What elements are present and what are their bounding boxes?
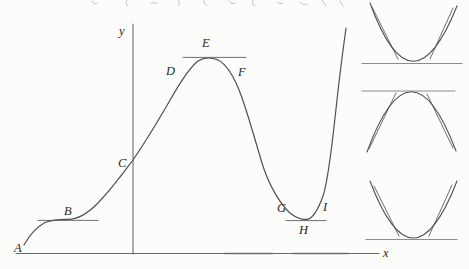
inset-middle-right-tangent-line (427, 94, 453, 148)
inset-middle-concave-down (362, 91, 456, 152)
inset-bottom-concave-up (366, 181, 457, 240)
point-label-b: B (64, 204, 72, 218)
y-axis-label: y (117, 24, 125, 38)
inset-middle-left-tangent-line (369, 93, 396, 149)
point-label-g: G (277, 201, 286, 215)
point-label-a: A (13, 241, 22, 255)
point-label-e: E (201, 36, 210, 50)
point-label-f: F (237, 65, 246, 79)
inset-bottom-parabola-curve (370, 181, 457, 238)
inset-bottom-right-tangent-line (429, 185, 452, 236)
figure-canvas: y x A B C D E F G H I (0, 0, 469, 269)
point-label-h: H (298, 223, 309, 237)
inset-top-right-tangent-line (430, 8, 453, 59)
x-axis-label: x (382, 246, 389, 260)
cropped-text-artifact (92, 0, 343, 6)
point-label-i: I (322, 200, 328, 214)
point-label-d: D (165, 64, 175, 78)
inset-middle-parabola-curve (367, 92, 456, 152)
point-label-c: C (118, 156, 127, 170)
inset-top-concave-up (362, 3, 462, 64)
inset-top-parabola-curve (370, 3, 457, 61)
main-curve (24, 28, 346, 245)
figure-page: y x A B C D E F G H I (0, 0, 469, 269)
inset-top-left-tangent-line (372, 7, 398, 59)
